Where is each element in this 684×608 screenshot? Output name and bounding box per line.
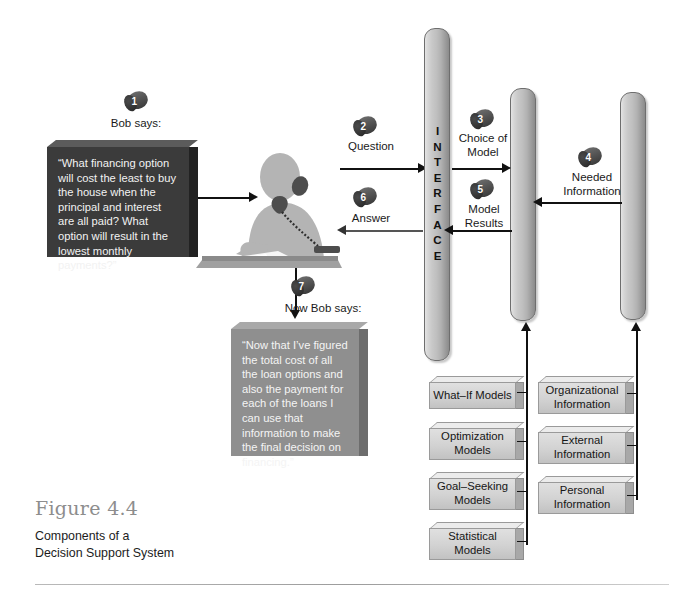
arrowhead-data-to-model	[533, 197, 542, 207]
step-badge-2: 2	[351, 113, 381, 139]
box-external-information: External Information	[538, 426, 626, 464]
arrowhead-models-to-model-pillar	[521, 322, 531, 331]
step-badge-2-number: 2	[355, 118, 371, 135]
step-badge-5: 5	[468, 176, 498, 202]
tick-goal-seeking-models	[517, 491, 527, 492]
step-badge-1: 1	[122, 88, 152, 114]
box-side-face	[626, 382, 634, 414]
tick-organizational-information	[627, 393, 637, 394]
connector-model-to-ui	[452, 230, 512, 232]
box-label: Goal–Seeking Models	[429, 478, 516, 510]
tick-optimization-models	[517, 441, 527, 442]
box-side-face	[516, 382, 524, 409]
box-side-face	[516, 428, 524, 460]
box-side-face	[516, 478, 524, 510]
quote-box-text: “What financing option will cost the lea…	[47, 147, 189, 257]
box-label: Organizational Information	[538, 382, 626, 414]
pillar-label: DATA MANAGEMENT	[620, 128, 646, 284]
quote-box-top-face	[47, 140, 198, 147]
step-badge-3: 3	[468, 106, 498, 132]
bus-line-model-sources	[526, 330, 528, 545]
step-badge-7: 7	[289, 273, 319, 299]
box-label: External Information	[538, 432, 626, 464]
quote-box-top-face	[231, 322, 368, 329]
step-label-6: Answer	[333, 212, 409, 226]
pillar-data-management: DATA MANAGEMENT	[620, 92, 646, 320]
step-badge-5-number: 5	[472, 181, 488, 198]
tick-personal-information	[627, 495, 637, 496]
tick-statistical-models	[517, 541, 527, 542]
arrowhead-ui-to-model	[502, 163, 511, 173]
arrowhead-model-to-ui	[444, 225, 453, 235]
step-badge-6: 6	[351, 184, 381, 210]
figure-canvas: 1 Bob says: “What financing option will …	[0, 0, 684, 608]
figure-number: Figure 4.4	[35, 497, 138, 519]
box-organizational-information: Organizational Information	[538, 376, 626, 414]
box-side-face	[516, 528, 524, 560]
connector-answer-to-bob	[345, 230, 423, 232]
step-label-4: Needed Information	[548, 171, 636, 198]
box-side-face	[626, 482, 634, 514]
box-optimization-models: Optimization Models	[429, 422, 516, 460]
step-badge-4: 4	[576, 144, 606, 170]
box-label: Personal Information	[538, 482, 626, 514]
arrowhead-data-to-data-pillar	[631, 322, 641, 331]
box-goal-seeking-models: Goal–Seeking Models	[429, 472, 516, 510]
connector-ui-to-model	[452, 168, 505, 170]
box-label: Statistical Models	[429, 528, 516, 560]
step-badge-3-number: 3	[472, 111, 488, 128]
arrowhead-answer-to-bob	[337, 225, 346, 235]
pillar-user-interface-management: USER INTERFACE MANAGEMENT	[424, 28, 450, 361]
step-badge-1-number: 1	[126, 93, 142, 110]
tick-what-if-models	[517, 392, 527, 393]
step-label-5: Model Results	[448, 203, 520, 230]
quote-box-side-face	[359, 329, 368, 456]
quote-box-bob-conclusion: “Now that I’ve figured the total cost of…	[231, 322, 359, 456]
connector-question-to-ui	[340, 168, 420, 170]
step-label-7: Now Bob says:	[268, 302, 378, 316]
figure-caption: Components of a Decision Support System	[35, 528, 275, 562]
quote-box-text: “Now that I’ve figured the total cost of…	[231, 329, 359, 456]
box-what-if-models: What–If Models	[429, 376, 516, 409]
bob-at-desk-illustration	[196, 150, 342, 268]
step-badge-6-number: 6	[355, 189, 371, 206]
footer-divider	[35, 584, 669, 585]
step-label-1: Bob says:	[76, 117, 196, 131]
step-label-2: Question	[330, 140, 412, 154]
step-badge-4-number: 4	[580, 149, 596, 166]
box-label: Optimization Models	[429, 428, 516, 460]
box-side-face	[626, 432, 634, 464]
tick-external-information	[627, 445, 637, 446]
step-badge-7-number: 7	[293, 278, 309, 295]
quote-box-bob-question: “What financing option will cost the lea…	[47, 140, 189, 257]
box-personal-information: Personal Information	[538, 476, 626, 514]
box-statistical-models: Statistical Models	[429, 522, 516, 560]
step-label-3: Choice of Model	[445, 132, 521, 159]
bus-line-data-sources	[636, 330, 638, 500]
connector-data-to-model	[540, 202, 622, 204]
box-label: What–If Models	[429, 382, 516, 409]
